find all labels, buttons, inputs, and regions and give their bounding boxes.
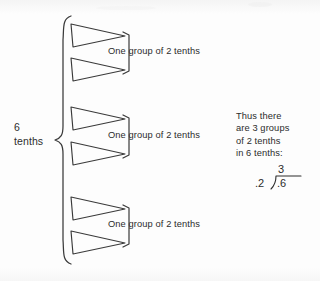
division-divisor: .2: [255, 177, 264, 189]
conclusion-text: Thus there are 3 groups of 2 tenths in 6…: [236, 110, 318, 160]
group-caption: One group of 2 tenths: [108, 219, 200, 230]
figure-canvas: 6 tenths One group of 2 tenths One group…: [0, 0, 320, 281]
scan-artifact: [96, 6, 156, 10]
conclusion-line-2: are 3 groups: [236, 122, 318, 134]
scan-artifact: [248, 2, 272, 7]
conclusion-line-3: of 2 tenths: [236, 135, 318, 147]
conclusion-line-4: in 6 tenths:: [236, 147, 318, 159]
group-caption: One group of 2 tenths: [108, 46, 200, 57]
division-dividend: .6: [277, 177, 286, 189]
long-division: 3 .2 .6: [246, 163, 310, 195]
conclusion-line-1: Thus there: [236, 110, 318, 122]
group-caption: One group of 2 tenths: [108, 130, 200, 141]
